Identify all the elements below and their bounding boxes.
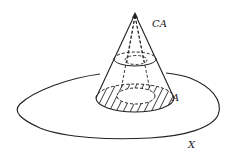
cone-apex [132, 12, 138, 18]
label-subspace: A [172, 93, 179, 103]
diagram-canvas: CA A X [0, 0, 232, 160]
label-cone: CA [152, 19, 167, 29]
label-space: X [188, 140, 195, 150]
cone-diagram [0, 0, 232, 160]
subspace-a-inner-boundary [117, 88, 155, 104]
cone-base-back [96, 84, 174, 98]
space-x-outline [17, 73, 219, 139]
cone-mid-section-front [114, 59, 156, 66]
